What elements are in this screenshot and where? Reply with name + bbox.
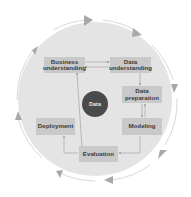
phase-business-understanding: Business understanding <box>44 57 85 73</box>
phase-modeling: Modeling <box>122 118 162 135</box>
data-center-node: Data <box>82 91 108 117</box>
phase-data-understanding: Data understanding <box>110 57 151 73</box>
phase-deployment: Deployment <box>36 118 75 135</box>
phase-data-preparation: Data preparation <box>122 86 162 103</box>
phase-evaluation: Evaluation <box>79 146 118 162</box>
